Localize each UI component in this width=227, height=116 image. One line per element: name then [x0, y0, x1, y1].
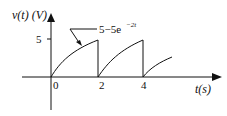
y-axis-label: v(t) (V): [12, 8, 47, 22]
curve-segment-2: [98, 40, 143, 77]
x-tick-label-4: 4: [141, 79, 147, 91]
annotation-formula: 5−5e: [99, 23, 121, 35]
x-axis-label: t(s): [195, 82, 211, 96]
y-tick-label-5: 5: [36, 33, 42, 45]
annotation-exponent: −2t: [126, 21, 137, 29]
x-tick-label-2: 2: [99, 79, 105, 91]
waveform-figure: v(t) (V) 5 0 2 4 t(s) 5−5e −2t: [0, 0, 227, 116]
annotation-arrow-icon: [76, 40, 82, 46]
x-axis-arrow-icon: [212, 73, 222, 81]
x-tick-label-0: 0: [53, 79, 59, 91]
curve-segment-3: [143, 57, 172, 77]
curve-segment-1: [51, 40, 98, 77]
y-axis-arrow-icon: [47, 13, 55, 22]
